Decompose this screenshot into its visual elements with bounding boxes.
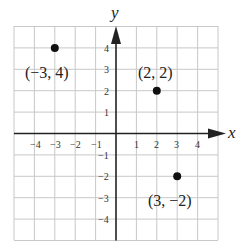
svg-text:2: 2 xyxy=(154,139,159,150)
data-point-3-neg2: (3, −2) xyxy=(148,172,192,210)
svg-text:3: 3 xyxy=(104,64,109,75)
svg-text:−4: −4 xyxy=(98,214,109,225)
x-tick-labels: −4 −3 −2 −1 1 2 3 4 xyxy=(30,139,200,150)
svg-text:3: 3 xyxy=(174,139,179,150)
coordinate-plane: x y −4 −3 −2 −1 1 2 3 4 4 3 2 1 −1 −2 −3… xyxy=(0,0,244,248)
svg-text:−1: −1 xyxy=(98,150,109,161)
svg-text:−2: −2 xyxy=(98,171,109,182)
point-label: (2, 2) xyxy=(138,64,173,82)
y-axis-label: y xyxy=(109,3,119,22)
svg-text:−4: −4 xyxy=(30,139,41,150)
svg-text:−2: −2 xyxy=(70,139,81,150)
point-label: (−3, 4) xyxy=(25,64,69,82)
y-axis-arrow-icon xyxy=(111,26,121,44)
svg-text:1: 1 xyxy=(134,139,139,150)
svg-text:2: 2 xyxy=(104,86,109,97)
x-axis-arrow-icon xyxy=(208,129,226,139)
svg-text:−3: −3 xyxy=(98,193,109,204)
svg-text:−3: −3 xyxy=(50,139,61,150)
svg-text:4: 4 xyxy=(195,139,200,150)
x-axis-label: x xyxy=(227,123,236,142)
svg-text:4: 4 xyxy=(104,43,109,54)
svg-text:−1: −1 xyxy=(91,139,102,150)
data-point-2-2: (2, 2) xyxy=(138,64,173,95)
x-axis xyxy=(14,129,226,139)
svg-text:1: 1 xyxy=(104,107,109,118)
data-point-neg3-4: (−3, 4) xyxy=(25,44,69,82)
point-label: (3, −2) xyxy=(148,192,192,210)
